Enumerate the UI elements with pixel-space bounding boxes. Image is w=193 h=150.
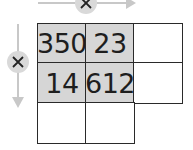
grid-cell-r3c2 bbox=[85, 102, 135, 144]
grid-cell-r2c3 bbox=[133, 62, 183, 104]
top-arrow-icon bbox=[38, 0, 136, 14]
cell-value: 14 bbox=[45, 68, 78, 99]
grid-cell-r3c1 bbox=[37, 102, 87, 144]
grid-cell-r2c2: 612 bbox=[85, 62, 135, 104]
grid-cell-r1c1: 350 bbox=[37, 23, 87, 64]
cell-value: 612 bbox=[85, 68, 135, 99]
cell-value: 23 bbox=[93, 28, 126, 59]
grid-cell-r2c1: 14 bbox=[37, 62, 87, 104]
cell-value: 350 bbox=[37, 28, 87, 59]
left-arrow-icon bbox=[7, 24, 29, 108]
grid-cell-r1c3 bbox=[133, 23, 183, 64]
grid-cell-r1c2: 23 bbox=[85, 23, 135, 64]
